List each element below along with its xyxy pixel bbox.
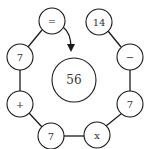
edge-7-equals	[28, 30, 42, 47]
node-label: x	[94, 130, 100, 141]
node-minus: −	[117, 44, 143, 70]
arrow-equals-to-center	[63, 27, 71, 48]
node-fourteen: 14	[86, 9, 112, 35]
node-label: 7	[17, 52, 23, 63]
node-seven-bottom: 7	[38, 123, 64, 149]
edge-7-x	[106, 114, 121, 126]
node-times: x	[84, 122, 110, 148]
node-label: 14	[93, 17, 106, 28]
node-seven-right: 7	[117, 91, 143, 117]
node-label: 7	[48, 131, 54, 142]
edge-7-plus	[29, 113, 42, 127]
puzzle-diagram: 56 = 14 − 7 x 7 + 7	[0, 0, 148, 149]
edge-14-minus	[108, 31, 121, 47]
node-label: +	[16, 99, 24, 110]
center-node: 56	[52, 58, 96, 102]
node-label: −	[126, 52, 134, 63]
node-equals: =	[39, 8, 65, 34]
node-label: =	[48, 16, 56, 27]
node-seven-left: 7	[7, 44, 33, 70]
node-label: 7	[127, 99, 133, 110]
center-label: 56	[66, 73, 81, 87]
node-plus: +	[7, 91, 33, 117]
